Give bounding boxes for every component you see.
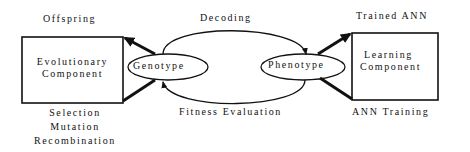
ann-training-arrow	[320, 78, 352, 99]
learning-line2: Component	[360, 61, 421, 73]
selection-label: Selection	[20, 106, 130, 120]
ann-training-label: ANN Training	[352, 106, 429, 118]
genotype-label: Genotype	[133, 60, 185, 72]
selection-mutation-recombination-labels: Selection Mutation Recombination	[20, 106, 130, 148]
decoding-arrow	[163, 31, 306, 54]
trained-ann-label: Trained ANN	[356, 10, 428, 22]
learning-line1: Learning	[360, 49, 421, 61]
evolutionary-component-label: Evolutionary Component	[22, 56, 123, 80]
learning-component-label: Learning Component	[360, 49, 421, 73]
offspring-arrow	[125, 38, 155, 54]
decoding-label: Decoding	[200, 12, 252, 24]
mutation-label: Mutation	[20, 120, 130, 134]
recombination-label: Recombination	[20, 134, 130, 148]
fitness-evaluation-arrow	[163, 80, 305, 104]
trained-ann-arrow	[318, 34, 350, 54]
evolutionary-line2: Component	[22, 68, 123, 80]
phenotype-label: Phenotype	[268, 59, 325, 71]
evolutionary-line1: Evolutionary	[22, 56, 123, 68]
selection-arrow	[123, 80, 155, 101]
offspring-label: Offspring	[43, 13, 96, 25]
fitness-evaluation-label: Fitness Evaluation	[179, 106, 282, 118]
